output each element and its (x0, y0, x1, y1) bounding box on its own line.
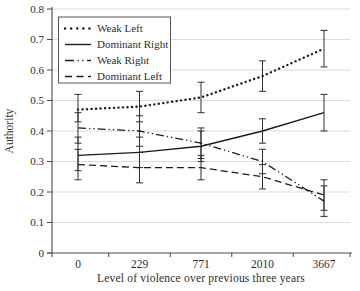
x-tick-label: 0 (75, 258, 81, 270)
x-tick-label: 771 (192, 258, 210, 270)
y-tick-label: 0.3 (30, 155, 44, 167)
y-tick-label: 0.4 (30, 125, 44, 137)
chart-figure: 00.10.20.30.40.50.60.70.8022977120103667… (0, 0, 360, 291)
y-tick-label: 0.8 (30, 3, 44, 15)
x-tick-label: 3667 (313, 258, 336, 270)
y-tick-label: 0.2 (30, 186, 44, 198)
legend-label-dominant-left: Dominant Left (97, 70, 162, 82)
legend-label-weak-left: Weak Left (97, 22, 143, 34)
legend-label-dominant-right: Dominant Right (97, 38, 168, 50)
y-tick-label: 0 (39, 247, 45, 259)
chart-canvas: 00.10.20.30.40.50.60.70.8022977120103667… (0, 0, 360, 291)
y-tick-label: 0.1 (30, 216, 44, 228)
x-tick-label: 2010 (251, 258, 274, 270)
y-tick-label: 0.5 (30, 94, 44, 106)
y-tick-label: 0.7 (30, 33, 44, 45)
x-tick-label: 229 (131, 258, 149, 270)
legend-label-weak-right: Weak Right (97, 54, 149, 66)
x-axis-title: Level of violence over previous three ye… (52, 272, 350, 284)
error-bars-dominant-left (75, 149, 328, 210)
y-tick-label: 0.6 (30, 64, 44, 76)
legend: Weak LeftDominant RightWeak RightDominan… (59, 17, 171, 83)
y-axis-title: Authority (3, 9, 19, 253)
